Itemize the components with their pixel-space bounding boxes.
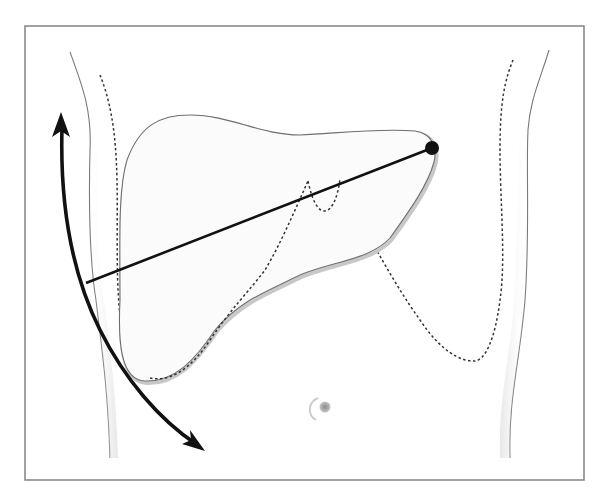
measure-endpoint-dot	[425, 141, 439, 155]
liver-diagram	[0, 0, 612, 500]
